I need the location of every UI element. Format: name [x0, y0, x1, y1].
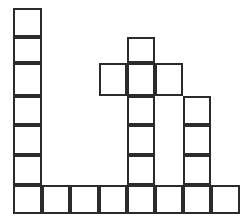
grid-cell	[127, 185, 155, 214]
grid-cell	[211, 185, 240, 214]
grid-cell	[183, 96, 211, 125]
grid-cell	[127, 155, 155, 185]
grid-cell	[13, 96, 42, 125]
block-grid-figure	[0, 0, 250, 223]
grid-cell	[183, 185, 211, 214]
grid-cell	[99, 63, 127, 96]
grid-cell	[155, 63, 183, 96]
grid-cell	[99, 185, 127, 214]
grid-cell	[127, 63, 155, 96]
grid-cell	[42, 185, 70, 214]
grid-cell	[183, 155, 211, 185]
grid-cell	[127, 125, 155, 155]
grid-cell	[70, 185, 99, 214]
figure-canvas	[0, 0, 250, 223]
grid-cell	[13, 155, 42, 185]
grid-cell	[13, 63, 42, 96]
grid-cell	[13, 37, 42, 63]
grid-cell	[183, 125, 211, 155]
grid-cell	[13, 8, 42, 37]
grid-cell	[127, 37, 155, 63]
grid-cell	[13, 185, 42, 214]
grid-cell	[155, 185, 183, 214]
grid-cell	[13, 125, 42, 155]
grid-cell	[127, 96, 155, 125]
